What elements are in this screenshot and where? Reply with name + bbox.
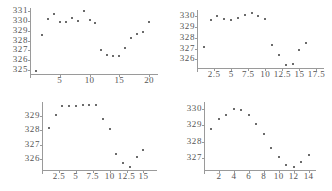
data-point	[278, 156, 280, 158]
y-axis	[204, 102, 205, 174]
data-point	[210, 128, 212, 130]
data-point	[240, 109, 242, 111]
data-point	[293, 166, 295, 168]
data-point	[285, 164, 287, 166]
x-tick-label: 6	[246, 172, 251, 181]
panel-bottom-right: 2468101214330329328327	[0, 0, 332, 191]
y-tick	[202, 158, 205, 159]
data-point	[263, 133, 265, 135]
scatter-panel-grid: 51015203313303293283273263252.557.51012.…	[0, 0, 332, 191]
y-tick	[202, 142, 205, 143]
x-tick-label: 2	[216, 172, 221, 181]
data-point	[248, 114, 250, 116]
data-point	[300, 161, 302, 163]
x-tick-label: 10	[274, 172, 284, 181]
y-tick-label: 330	[187, 104, 202, 113]
data-point	[233, 108, 235, 110]
data-point	[225, 114, 227, 116]
data-point	[308, 154, 310, 156]
y-tick-label: 328	[187, 137, 202, 146]
y-tick-label: 329	[187, 120, 202, 129]
x-tick-label: 8	[261, 172, 266, 181]
y-tick	[202, 125, 205, 126]
y-tick-label: 327	[187, 153, 202, 162]
data-point	[255, 123, 257, 125]
x-tick-label: 12	[289, 172, 299, 181]
x-tick-label: 4	[231, 172, 236, 181]
y-tick	[202, 109, 205, 110]
data-point	[218, 118, 220, 120]
data-point	[270, 147, 272, 149]
x-tick-label: 14	[304, 172, 314, 181]
